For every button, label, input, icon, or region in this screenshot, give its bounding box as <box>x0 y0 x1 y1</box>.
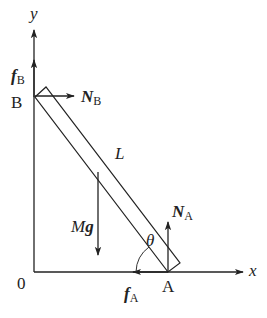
origin-label: 0 <box>17 275 26 292</box>
weight-mass-symbol: M <box>71 217 85 236</box>
ladder-free-body-diagram <box>0 0 267 318</box>
normal-a-label: NA <box>172 203 193 222</box>
weight-label: Mg <box>71 218 94 235</box>
point-a-label: A <box>162 278 174 295</box>
friction-a-label: fA <box>124 285 138 304</box>
normal-a-symbol: N <box>172 202 184 221</box>
normal-b-symbol: N <box>81 87 93 106</box>
friction-a-subscript: A <box>130 291 139 305</box>
normal-b-label: NB <box>81 88 101 107</box>
point-b-label: B <box>11 94 22 111</box>
normal-a-subscript: A <box>184 209 193 223</box>
friction-b-label: fB <box>11 67 25 86</box>
friction-b-subscript: B <box>17 73 25 87</box>
y-axis-label: y <box>30 5 38 22</box>
x-axis-label: x <box>249 262 257 279</box>
rod <box>35 87 180 272</box>
normal-b-subscript: B <box>93 94 101 108</box>
angle-label: θ <box>146 232 154 249</box>
angle-arc <box>136 247 149 272</box>
weight-gravity-symbol: g <box>85 217 94 236</box>
rod-length-label: L <box>115 145 124 162</box>
